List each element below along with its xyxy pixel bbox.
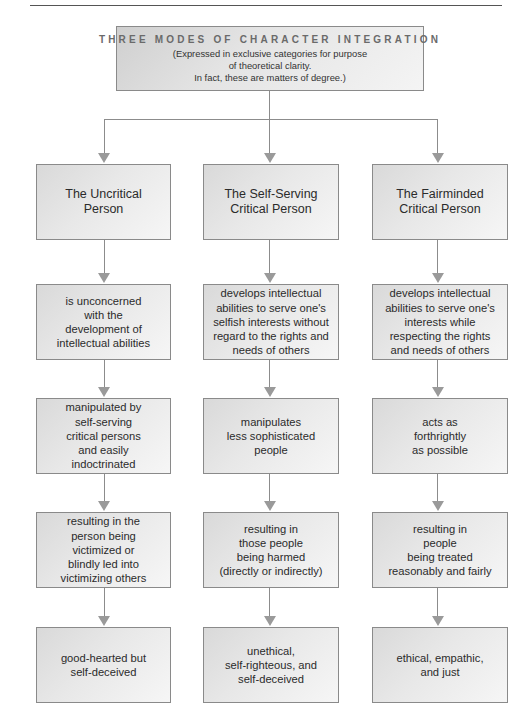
- arrow-down-icon: [98, 273, 110, 283]
- arrow-down-icon: [432, 501, 444, 511]
- connector-line: [104, 474, 105, 502]
- connector-line: [437, 588, 438, 617]
- fairminded-person-box: The Fairminded Critical Person: [372, 164, 508, 240]
- arrow-down-icon: [264, 501, 276, 511]
- self-serving-step-1-box: develops intellectual abilities to serve…: [203, 284, 339, 360]
- connector-line: [437, 240, 438, 274]
- arrow-down-icon: [264, 616, 276, 626]
- connector-line: [104, 360, 105, 388]
- uncritical-outcome-box: good-hearted but self-deceived: [36, 627, 171, 703]
- arrow-down-icon: [98, 501, 110, 511]
- fairminded-step-2-box: acts as forthrightly as possible: [372, 398, 508, 474]
- diagram-title: THREE MODES OF CHARACTER INTEGRATION: [99, 33, 441, 46]
- arrow-down-icon: [264, 153, 276, 163]
- arrow-down-icon: [432, 153, 444, 163]
- fairminded-step-3-box: resulting in people being treated reason…: [372, 512, 508, 588]
- connector-line: [269, 360, 270, 388]
- branch-drop-left: [104, 119, 105, 154]
- arrow-down-icon: [264, 387, 276, 397]
- uncritical-step-3-box: resulting in the person being victimized…: [36, 512, 171, 588]
- arrow-down-icon: [98, 153, 110, 163]
- arrow-down-icon: [264, 273, 276, 283]
- fairminded-outcome-box: ethical, empathic, and just: [372, 627, 508, 703]
- arrow-down-icon: [432, 616, 444, 626]
- uncritical-step-1-box: is unconcerned with the development of i…: [36, 284, 171, 360]
- arrow-down-icon: [98, 387, 110, 397]
- connector-line: [269, 240, 270, 274]
- branch-drop-right: [437, 119, 438, 154]
- branch-drop-middle: [269, 119, 270, 154]
- title-connector-line: [269, 91, 270, 119]
- self-serving-step-3-box: resulting in those people being harmed (…: [203, 512, 339, 588]
- page-header-rule: [30, 5, 502, 6]
- connector-line: [269, 588, 270, 617]
- connector-line: [269, 474, 270, 502]
- connector-line: [104, 588, 105, 617]
- connector-line: [104, 240, 105, 274]
- diagram-subtitle: (Expressed in exclusive categories for p…: [173, 48, 367, 85]
- connector-line: [437, 474, 438, 502]
- self-serving-step-2-box: manipulates less sophisticated people: [203, 398, 339, 474]
- arrow-down-icon: [432, 387, 444, 397]
- connector-line: [437, 360, 438, 388]
- self-serving-person-box: The Self-Serving Critical Person: [203, 164, 339, 240]
- uncritical-person-box: The Uncritical Person: [36, 164, 171, 240]
- branch-line: [104, 119, 438, 120]
- diagram-title-box: THREE MODES OF CHARACTER INTEGRATION (Ex…: [116, 26, 424, 91]
- arrow-down-icon: [432, 273, 444, 283]
- uncritical-step-2-box: manipulated by self-serving critical per…: [36, 398, 171, 474]
- self-serving-outcome-box: unethical, self-righteous, and self-dece…: [203, 627, 339, 703]
- fairminded-step-1-box: develops intellectual abilities to serve…: [372, 284, 508, 360]
- arrow-down-icon: [98, 616, 110, 626]
